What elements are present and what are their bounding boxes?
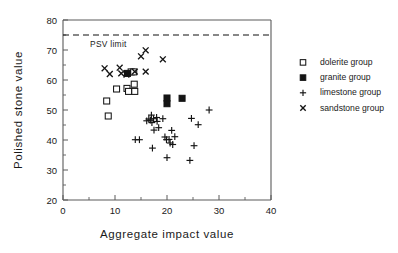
- data-point: [179, 95, 185, 101]
- legend-label: limestone group: [320, 87, 381, 97]
- x-tick-label: 0: [60, 205, 65, 216]
- data-point: [143, 69, 149, 75]
- x-tick-label: 20: [162, 205, 173, 216]
- series-dolerite-group: [104, 69, 138, 119]
- data-point: [188, 115, 195, 122]
- data-point: [191, 142, 198, 149]
- series-limestone-group: [132, 107, 213, 164]
- y-axis: 80 70 60 50 40 30 20 Polished stone valu…: [12, 15, 68, 206]
- y-axis-title: Polished stone value: [12, 51, 24, 169]
- data-point: [149, 145, 156, 152]
- data-point: [186, 157, 193, 164]
- y-tick-label: 70: [46, 45, 57, 56]
- legend-marker-open-square: [300, 60, 306, 66]
- y-tick-label: 60: [46, 75, 57, 86]
- legend-label: dolerite group: [320, 57, 373, 67]
- data-point: [160, 56, 166, 62]
- y-tick-label: 80: [46, 15, 57, 26]
- data-point: [195, 121, 202, 128]
- psv-limit-annotation: PSV limit: [63, 35, 271, 49]
- legend-marker-cross: [300, 105, 305, 110]
- x-axis: 0 10 20 30 40 Aggregate impact value: [60, 195, 276, 240]
- data-point: [114, 86, 120, 92]
- x-axis-ticks: [63, 195, 271, 200]
- data-point: [164, 154, 171, 161]
- x-axis-title: Aggregate impact value: [100, 228, 234, 240]
- data-point: [164, 101, 170, 107]
- x-tick-label: 10: [110, 205, 121, 216]
- data-point: [168, 127, 175, 134]
- data-point: [206, 107, 213, 114]
- data-point: [136, 136, 143, 143]
- x-tick-label: 30: [214, 205, 225, 216]
- data-point: [131, 81, 137, 87]
- series-sandstone-group: [102, 47, 166, 77]
- scatter-plot: 80 70 60 50 40 30 20 Polished stone valu…: [0, 0, 398, 253]
- data-point: [102, 65, 108, 71]
- legend-label: sandstone group: [320, 103, 384, 113]
- y-tick-label: 30: [46, 165, 57, 176]
- data-point: [132, 88, 138, 94]
- y-tick-label: 40: [46, 135, 57, 146]
- x-tick-label: 40: [266, 205, 277, 216]
- data-point: [118, 70, 124, 76]
- data-point: [105, 113, 111, 119]
- data-point: [104, 98, 110, 104]
- legend-label: granite group: [320, 72, 371, 82]
- data-point: [117, 65, 123, 71]
- legend-marker-plus: [300, 90, 306, 96]
- data-point: [126, 88, 132, 94]
- legend-marker-filled-square: [300, 75, 306, 81]
- y-tick-label: 20: [46, 195, 57, 206]
- data-point: [138, 53, 144, 59]
- legend: dolerite groupgranite grouplimestone gro…: [300, 57, 384, 113]
- y-axis-ticks: [63, 20, 68, 200]
- chart-figure: 80 70 60 50 40 30 20 Polished stone valu…: [0, 0, 398, 253]
- y-tick-label: 50: [46, 105, 57, 116]
- psv-limit-label: PSV limit: [90, 39, 127, 49]
- data-point: [107, 71, 113, 77]
- data-markers: [102, 47, 213, 163]
- data-point: [164, 95, 170, 101]
- data-point: [143, 47, 149, 53]
